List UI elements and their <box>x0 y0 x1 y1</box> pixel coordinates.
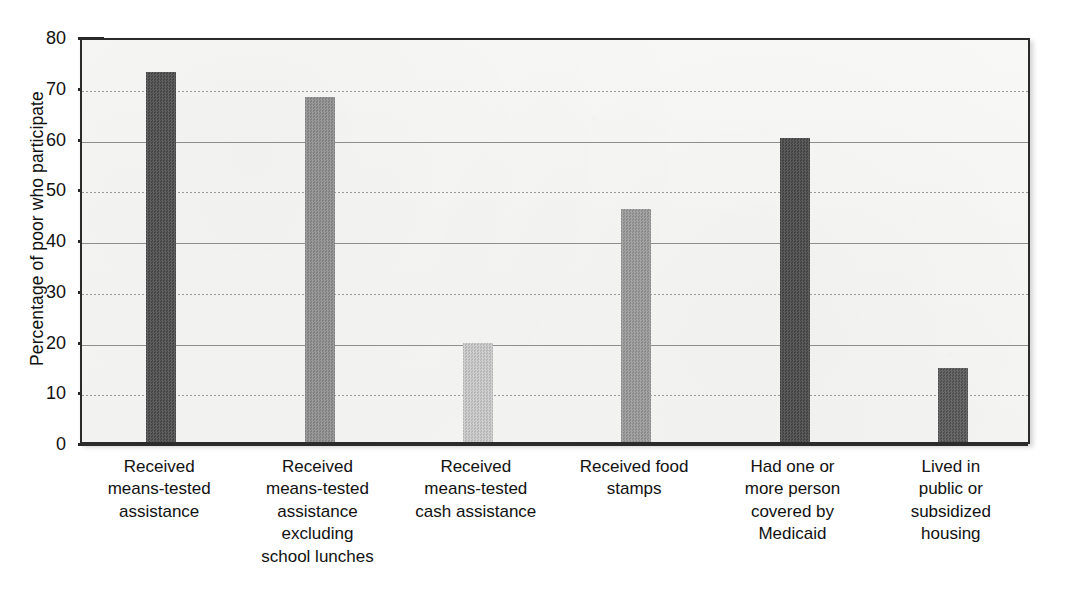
gridline-70 <box>82 91 1028 92</box>
x-axis-label-line: Lived in <box>876 456 1026 478</box>
y-tick-label-70: 70 <box>6 80 66 98</box>
x-axis-label-line: Received <box>242 456 392 478</box>
y-tick-label-0: 0 <box>6 435 66 453</box>
bar-fill-texture <box>463 343 493 442</box>
y-tick-label-10: 10 <box>6 384 66 402</box>
bar-4 <box>621 209 651 442</box>
plot-area <box>80 38 1030 444</box>
x-axis-label-line: covered by <box>717 501 867 523</box>
x-axis-label-line: subsidized <box>876 501 1026 523</box>
bar-chart-figure: Percentage of poor who participate 01020… <box>0 0 1080 591</box>
bar-fill-texture <box>780 138 810 443</box>
x-axis-label-line: stamps <box>559 478 709 500</box>
gridline-50 <box>82 192 1028 193</box>
gridline-0 <box>82 444 1028 446</box>
plot-background <box>82 40 1028 442</box>
gridline-60 <box>82 142 1028 143</box>
x-axis-label-group: Receivedmeans-testedassistanceReceivedme… <box>80 456 1030 586</box>
y-tick-label-40: 40 <box>6 232 66 250</box>
gridline-40 <box>82 243 1028 244</box>
y-tick-label-80: 80 <box>6 29 66 47</box>
x-axis-label-line: means-tested <box>401 478 551 500</box>
gridline-20 <box>82 345 1028 346</box>
x-axis-label-line: Received <box>401 456 551 478</box>
y-tick-label-30: 30 <box>6 283 66 301</box>
x-axis-label-line: school lunches <box>242 546 392 568</box>
x-axis-label-line: public or <box>876 478 1026 500</box>
x-axis-label-line: assistance <box>242 501 392 523</box>
x-axis-label-6: Lived inpublic orsubsidizedhousing <box>872 456 1030 586</box>
x-axis-label-line: Received <box>84 456 234 478</box>
bar-fill-texture <box>621 209 651 442</box>
x-axis-label-line: more person <box>717 478 867 500</box>
x-axis-label-5: Had one ormore personcovered byMedicaid <box>713 456 871 586</box>
x-axis-label-line: cash assistance <box>401 501 551 523</box>
x-axis-label-line: excluding <box>242 523 392 545</box>
x-axis-label-2: Receivedmeans-testedassistanceexcludings… <box>238 456 396 586</box>
x-axis-label-4: Received foodstamps <box>555 456 713 586</box>
bar-1 <box>146 72 176 442</box>
bar-fill-texture <box>146 72 176 442</box>
bar-2 <box>305 97 335 442</box>
x-axis-label-1: Receivedmeans-testedassistance <box>80 456 238 586</box>
gridline-10 <box>82 395 1028 396</box>
x-axis-label-line: means-tested <box>84 478 234 500</box>
x-axis-label-line: means-tested <box>242 478 392 500</box>
y-tick-label-20: 20 <box>6 334 66 352</box>
x-axis-label-line: Medicaid <box>717 523 867 545</box>
x-axis-label-3: Receivedmeans-testedcash assistance <box>397 456 555 586</box>
x-axis-label-line: Received food <box>559 456 709 478</box>
bar-3 <box>463 343 493 442</box>
y-tick-label-50: 50 <box>6 181 66 199</box>
bar-5 <box>780 138 810 443</box>
gridline-30 <box>82 294 1028 295</box>
bar-6 <box>938 368 968 442</box>
x-axis-label-line: assistance <box>84 501 234 523</box>
x-axis-label-line: Had one or <box>717 456 867 478</box>
y-tick-label-60: 60 <box>6 131 66 149</box>
bar-fill-texture <box>305 97 335 442</box>
x-axis-label-line: housing <box>876 523 1026 545</box>
bar-fill-texture <box>938 368 968 442</box>
